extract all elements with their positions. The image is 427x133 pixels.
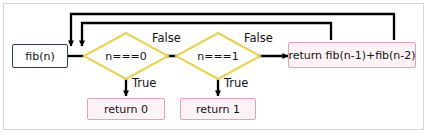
- flowchart-canvas: fib(n) n===0 n===1 return 0 return 1 ret…: [0, 0, 427, 133]
- node-return-zero[interactable]: return 0: [87, 98, 165, 120]
- edge-label-true-first: True: [132, 78, 156, 90]
- edge-label-false-first: False: [152, 33, 181, 45]
- node-return-zero-label: return 0: [104, 104, 148, 115]
- node-start-fib[interactable]: fib(n): [12, 44, 68, 68]
- edge-label-false-second: False: [244, 33, 273, 45]
- edge-label-true-second: True: [224, 78, 248, 90]
- node-start-label: fib(n): [25, 51, 54, 62]
- node-return-one-label: return 1: [196, 104, 240, 115]
- node-return-one[interactable]: return 1: [180, 98, 256, 120]
- node-return-recursive[interactable]: return fib(n-1)+fib(n-2): [288, 42, 416, 68]
- node-return-recursive-label: return fib(n-1)+fib(n-2): [288, 50, 415, 61]
